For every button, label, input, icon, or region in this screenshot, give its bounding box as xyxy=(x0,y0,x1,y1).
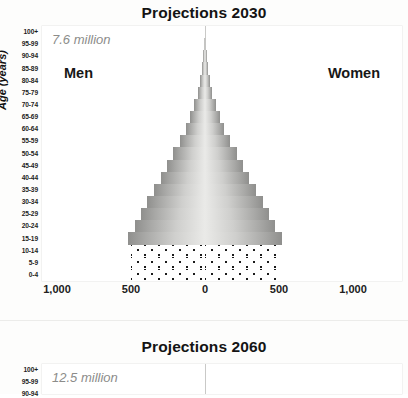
age-tick-label: 70-74 xyxy=(22,102,38,109)
bar-women xyxy=(205,208,269,220)
bar-men xyxy=(167,160,205,172)
bar-men xyxy=(135,220,205,232)
age-tick-label: 50-54 xyxy=(22,150,38,157)
x-tick-label: 500 xyxy=(122,283,140,295)
age-tick-label: 75-79 xyxy=(22,89,38,96)
bar-men xyxy=(141,208,205,220)
age-tick-label: 0-4 xyxy=(29,272,38,279)
age-tick-label: 25-29 xyxy=(22,211,38,218)
bar-women xyxy=(205,172,249,184)
bar-men xyxy=(173,147,205,159)
total-population-label-2060: 12.5 million xyxy=(52,370,118,385)
age-tick-label: 80-84 xyxy=(22,77,38,84)
bar-row xyxy=(42,160,402,172)
bar-women xyxy=(205,75,210,87)
bar-row xyxy=(42,196,402,208)
y-axis-age-ticks-2030: 100+95-9990-9485-8980-8475-7970-7465-696… xyxy=(0,26,40,281)
bar-row xyxy=(42,135,402,147)
bar-women xyxy=(205,257,279,269)
zero-axis-line-2060 xyxy=(205,364,206,394)
bar-women xyxy=(205,184,256,196)
plot-area-2030: 7.6 million Men Women xyxy=(42,26,402,281)
plot-wrap-2030: 7.6 million Men Women xyxy=(42,26,402,320)
bar-men xyxy=(198,87,205,99)
bar-men xyxy=(186,123,205,135)
bar-women xyxy=(205,50,207,62)
bar-men xyxy=(131,245,205,257)
bar-row xyxy=(42,87,402,99)
bar-row xyxy=(42,147,402,159)
age-tick-label: 60-64 xyxy=(22,126,38,133)
bar-row xyxy=(42,38,402,50)
bar-women xyxy=(205,196,263,208)
bar-row xyxy=(42,208,402,220)
chart-panel-2030: Projections 2030 Age (years) 100+95-9990… xyxy=(0,0,408,320)
bar-women xyxy=(205,245,279,257)
bar-women xyxy=(205,147,237,159)
age-tick-label: 5-9 xyxy=(29,259,38,266)
bar-men xyxy=(194,99,205,111)
bar-women xyxy=(205,220,275,232)
bar-men xyxy=(161,172,205,184)
chart-panel-2060: Projections 2060 100+95-9990-94 12.5 mil… xyxy=(0,320,408,394)
y-axis-age-ticks-2060: 100+95-9990-94 xyxy=(0,364,40,394)
bar-men xyxy=(131,257,205,269)
age-tick-label: 35-39 xyxy=(22,187,38,194)
age-tick-label: 100+ xyxy=(24,367,38,374)
bar-row xyxy=(42,123,402,135)
plot-area-2060: 12.5 million xyxy=(42,364,402,394)
bar-women xyxy=(205,111,220,123)
bar-women xyxy=(205,123,224,135)
bar-row xyxy=(42,220,402,232)
bar-women xyxy=(205,62,208,74)
bar-men xyxy=(128,232,205,244)
bar-women xyxy=(205,232,282,244)
bar-women xyxy=(205,269,279,281)
bar-row xyxy=(42,99,402,111)
bar-row xyxy=(42,257,402,269)
bar-row xyxy=(42,172,402,184)
bar-row xyxy=(42,269,402,281)
bar-row xyxy=(42,232,402,244)
x-tick-label: 0 xyxy=(202,283,208,295)
age-tick-label: 95-99 xyxy=(22,379,38,386)
age-tick-label: 40-44 xyxy=(22,174,38,181)
bar-men xyxy=(147,196,205,208)
bar-row xyxy=(42,245,402,257)
bar-row xyxy=(42,75,402,87)
panel-divider xyxy=(0,320,408,321)
bar-row xyxy=(42,50,402,62)
age-tick-label: 15-19 xyxy=(22,235,38,242)
x-axis-ticks-2030: 1,00050005001,000 xyxy=(42,281,402,303)
age-tick-label: 85-89 xyxy=(22,65,38,72)
bar-women xyxy=(205,160,243,172)
x-tick-label: 1,000 xyxy=(43,283,71,295)
plot-wrap-2060: 12.5 million xyxy=(42,364,402,394)
x-tick-label: 1,000 xyxy=(339,283,367,295)
age-tick-label: 90-94 xyxy=(22,391,38,398)
bar-women xyxy=(205,135,230,147)
chart-title-2060: Projections 2060 xyxy=(0,320,408,358)
bar-men xyxy=(131,269,205,281)
bar-row xyxy=(42,26,402,38)
bar-women xyxy=(205,99,216,111)
bar-women xyxy=(205,87,212,99)
age-tick-label: 55-59 xyxy=(22,138,38,145)
age-tick-label: 90-94 xyxy=(22,53,38,60)
age-tick-label: 95-99 xyxy=(22,41,38,48)
age-tick-label: 100+ xyxy=(24,29,38,36)
age-tick-label: 30-34 xyxy=(22,199,38,206)
bar-men xyxy=(190,111,205,123)
x-tick-label: 500 xyxy=(270,283,288,295)
age-tick-label: 65-69 xyxy=(22,114,38,121)
age-tick-label: 45-49 xyxy=(22,162,38,169)
bar-row xyxy=(42,184,402,196)
bar-row xyxy=(42,62,402,74)
bar-row xyxy=(42,111,402,123)
bar-men xyxy=(180,135,205,147)
age-tick-label: 10-14 xyxy=(22,247,38,254)
bar-women xyxy=(205,38,206,50)
chart-title-2030: Projections 2030 xyxy=(0,0,408,24)
bar-men xyxy=(154,184,205,196)
